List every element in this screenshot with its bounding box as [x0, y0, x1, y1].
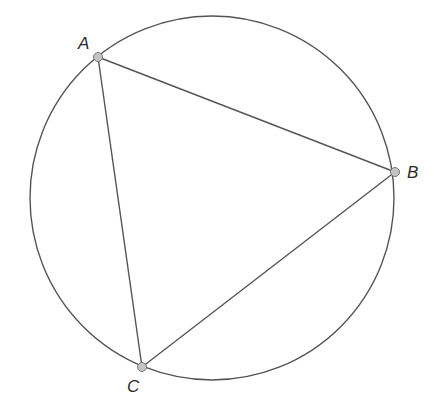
- point-b: [391, 168, 400, 177]
- point-c: [138, 363, 147, 372]
- label-c: C: [127, 377, 140, 396]
- label-b: B: [407, 163, 418, 182]
- label-a: A: [77, 34, 89, 53]
- segment-ca: [98, 57, 142, 367]
- geometry-diagram: A B C: [0, 0, 436, 413]
- circumscribed-circle: [30, 16, 394, 380]
- segment-ab: [98, 57, 395, 172]
- segment-bc: [142, 172, 395, 367]
- point-a: [94, 53, 103, 62]
